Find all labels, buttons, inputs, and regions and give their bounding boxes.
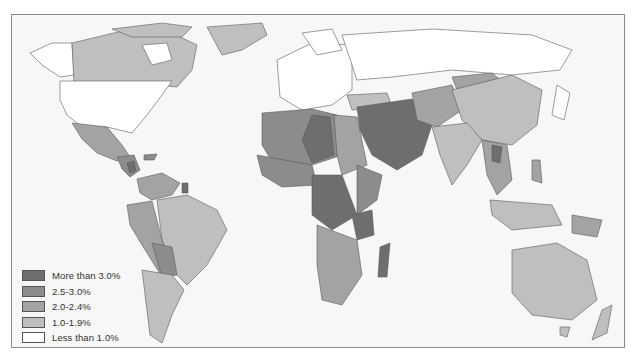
legend-label: 2.0-2.4%	[52, 301, 91, 312]
legend-swatch	[22, 286, 45, 297]
legend-label: Less than 1.0%	[52, 332, 119, 343]
region-madagascar	[378, 243, 390, 277]
region-philippines	[532, 160, 542, 183]
legend-item: Less than 1.0%	[22, 330, 120, 346]
region-russia	[342, 29, 572, 80]
region-horn-africa	[357, 165, 382, 215]
region-alaska	[30, 43, 74, 77]
legend-swatch	[22, 270, 45, 281]
region-argentina	[142, 270, 184, 343]
legend-item: More than 3.0%	[22, 268, 120, 284]
legend-swatch	[22, 317, 45, 328]
region-guyana	[182, 183, 188, 193]
region-caribbean	[144, 154, 157, 160]
region-venezuela-colombia	[137, 173, 180, 200]
region-papua	[572, 215, 602, 237]
region-greenland	[207, 23, 267, 55]
world-map-frame: More than 3.0% 2.5-3.0% 2.0-2.4% 1.0-1.9…	[11, 14, 625, 348]
region-australia	[512, 243, 597, 320]
legend-item: 1.0-1.9%	[22, 315, 120, 331]
map-legend: More than 3.0% 2.5-3.0% 2.0-2.4% 1.0-1.9…	[22, 268, 120, 346]
region-canada	[72, 31, 197, 87]
legend-swatch	[22, 332, 45, 343]
region-europe	[277, 43, 352, 110]
region-laos	[492, 145, 502, 163]
legend-label: 1.0-1.9%	[52, 317, 91, 328]
region-india	[432, 123, 482, 185]
legend-swatch	[22, 301, 45, 312]
region-indonesia	[490, 200, 562, 230]
region-southern-africa	[317, 225, 362, 305]
legend-item: 2.0-2.4%	[22, 299, 120, 315]
legend-label: 2.5-3.0%	[52, 286, 91, 297]
region-new-zealand	[592, 305, 612, 340]
legend-label: More than 3.0%	[52, 270, 120, 281]
region-japan	[552, 85, 570, 120]
region-east-africa	[352, 210, 374, 240]
region-central-africa	[312, 175, 357, 230]
legend-item: 2.5-3.0%	[22, 284, 120, 300]
region-tasmania	[560, 327, 570, 337]
